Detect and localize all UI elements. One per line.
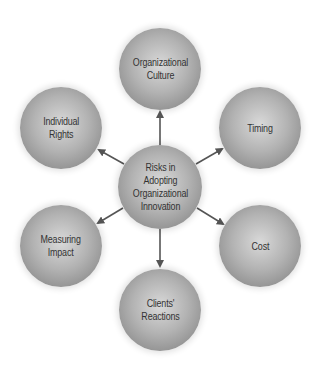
arrow-to-measuring-impact [98,208,123,223]
clients-reactions-label: Clients' Reactions [141,297,179,323]
node-individual-rights: Individual Rights [20,87,102,169]
node-organizational-culture: Organizational Culture [119,28,201,110]
cost-label: Cost [251,240,269,253]
arrow-to-individual-rights [99,150,124,164]
node-clients-reactions: Clients' Reactions [119,269,201,351]
arrow-to-cost [197,208,223,224]
timing-label: Timing [247,122,272,135]
individual-rights-label: Individual Rights [43,115,79,141]
measuring-impact-label: Measuring Impact [41,233,81,259]
node-timing: Timing [219,87,301,169]
organizational-culture-label: Organizational Culture [132,56,187,82]
center-label: Risks in Adopting Organizational Innovat… [132,161,187,213]
node-cost: Cost [219,205,301,287]
node-center: Risks in Adopting Organizational Innovat… [118,145,202,229]
node-measuring-impact: Measuring Impact [20,205,102,287]
arrow-to-timing [196,149,222,164]
